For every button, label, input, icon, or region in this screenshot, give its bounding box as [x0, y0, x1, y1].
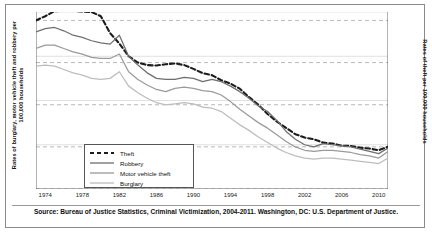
legend-swatch-robbery	[89, 158, 115, 168]
svg-text:2002: 2002	[298, 192, 312, 198]
y-axis-left-title: Rates of burglary, motor vehicle theft a…	[11, 15, 25, 175]
svg-text:1978: 1978	[76, 192, 90, 198]
svg-text:1998: 1998	[261, 192, 275, 198]
svg-text:1994: 1994	[224, 192, 238, 198]
svg-text:1974: 1974	[39, 192, 53, 198]
legend-label-motor-vehicle-theft: Motor vehicle theft	[120, 170, 171, 177]
legend-item-motor-vehicle-theft: Motor vehicle theft	[89, 168, 189, 178]
svg-text:1990: 1990	[187, 192, 201, 198]
legend-label-theft: Theft	[120, 150, 134, 157]
legend-label-robbery: Robbery	[120, 160, 143, 167]
legend-swatch-motor-vehicle-theft	[89, 168, 115, 178]
legend-swatch-burglary	[89, 178, 115, 188]
legend-item-burglary: Burglary	[89, 178, 189, 188]
y-axis-right-title: Rates of theft per 100,000 households	[421, 12, 428, 172]
svg-text:1986: 1986	[150, 192, 164, 198]
svg-text:2010: 2010	[372, 192, 386, 198]
legend-item-theft: Theft	[89, 148, 189, 158]
source-divider	[12, 205, 420, 206]
svg-text:2006: 2006	[335, 192, 349, 198]
legend-label-burglary: Burglary	[120, 180, 143, 187]
source-note: Source: Bureau of Justice Statistics, Cr…	[6, 208, 426, 215]
x-axis-tick-labels: 1974197819821986199019941998200220062010	[36, 190, 388, 202]
legend-swatch-theft	[89, 148, 115, 158]
figure-container: Rates of burglary, motor vehicle theft a…	[0, 0, 432, 235]
svg-text:1982: 1982	[113, 192, 127, 198]
chart-legend: Theft Robbery Motor vehicle theft Burgla…	[84, 144, 194, 188]
legend-item-robbery: Robbery	[89, 158, 189, 168]
